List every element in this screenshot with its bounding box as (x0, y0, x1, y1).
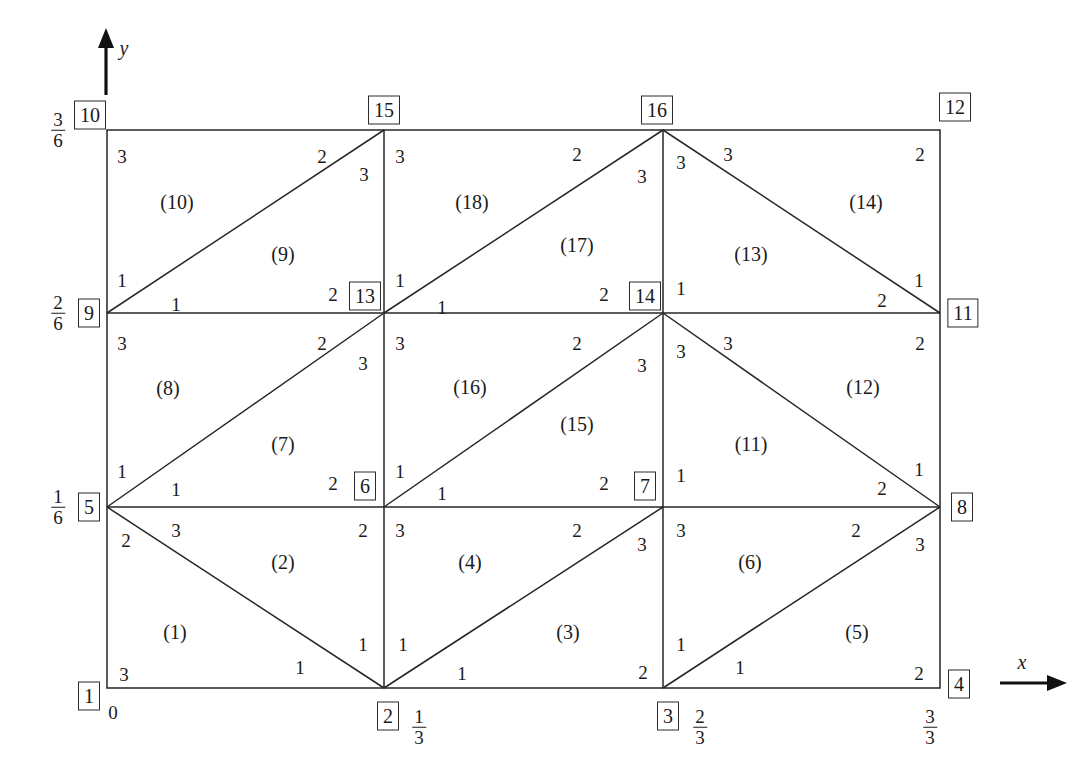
diagonal-e5-e6 (663, 507, 940, 688)
local-node-number: 3 (395, 333, 405, 355)
local-node-number: 3 (637, 166, 647, 188)
element-label-18: (18) (455, 191, 488, 214)
element-label-2: (2) (271, 551, 294, 574)
local-node-number: 2 (572, 144, 582, 166)
x-tick-2-3-den: 3 (693, 727, 707, 748)
global-node-9: 9 (78, 299, 100, 328)
local-node-number: 2 (317, 333, 327, 355)
local-node-number: 1 (437, 297, 447, 319)
local-node-number: 3 (358, 353, 368, 375)
local-node-number: 1 (457, 663, 467, 685)
local-node-number: 2 (599, 473, 609, 495)
diagonal-e1-e2 (107, 507, 384, 688)
element-label-3: (3) (556, 621, 579, 644)
y-tick-3-6: 36 (51, 110, 65, 151)
global-node-2: 2 (377, 702, 399, 731)
x-tick-2-3-num: 2 (693, 707, 707, 727)
x-tick-3-3-num: 3 (923, 707, 937, 727)
element-label-1: (1) (163, 621, 186, 644)
element-label-6: (6) (738, 551, 761, 574)
local-node-number: 3 (171, 520, 181, 542)
y-tick-1-6: 16 (51, 487, 65, 528)
element-label-17: (17) (560, 234, 593, 257)
global-node-8: 8 (951, 493, 973, 522)
y-tick-3-6-den: 6 (51, 130, 65, 151)
local-node-number: 1 (914, 270, 924, 292)
local-node-number: 3 (119, 664, 129, 686)
local-node-number: 2 (851, 520, 861, 542)
element-label-9: (9) (271, 243, 294, 266)
global-node-7: 7 (634, 472, 656, 501)
y-axis-label: y (120, 37, 129, 60)
x-tick-2-3: 23 (693, 707, 707, 748)
mesh-outer-boundary (107, 130, 940, 688)
global-node-4: 4 (948, 670, 970, 699)
y-tick-3-6-num: 3 (51, 110, 65, 130)
local-node-number: 2 (317, 146, 327, 168)
local-node-number: 2 (599, 284, 609, 306)
local-node-number: 1 (117, 270, 127, 292)
diagonal-e13-e14 (663, 130, 940, 313)
x-tick-0: 0 (108, 702, 118, 724)
local-node-number: 1 (676, 465, 686, 487)
element-label-4: (4) (458, 551, 481, 574)
global-node-12: 12 (939, 93, 971, 122)
local-node-number: 2 (914, 663, 924, 685)
local-node-number: 1 (395, 270, 405, 292)
local-node-number: 2 (877, 290, 887, 312)
y-axis-arrow (98, 28, 114, 95)
local-node-number: 2 (121, 530, 131, 552)
x-tick-1-3: 13 (412, 707, 426, 748)
element-label-11: (11) (735, 433, 768, 456)
diagonal-e9-e10 (107, 130, 384, 313)
mesh-figure: y x 36 26 16 0 13 23 33 1 2 3 4 5 6 7 8 … (0, 0, 1087, 783)
element-label-14: (14) (849, 191, 882, 214)
x-tick-1-3-num: 1 (412, 707, 426, 727)
local-node-number: 2 (915, 333, 925, 355)
local-node-number: 2 (328, 284, 338, 306)
local-node-number: 1 (914, 459, 924, 481)
local-node-number: 2 (638, 662, 648, 684)
local-node-number: 3 (117, 146, 127, 168)
local-node-number: 1 (171, 294, 181, 316)
element-label-10: (10) (160, 191, 193, 214)
local-node-number: 2 (572, 333, 582, 355)
local-node-number: 1 (117, 461, 127, 483)
global-node-16: 16 (641, 96, 673, 125)
local-node-number: 1 (171, 479, 181, 501)
local-node-number: 2 (877, 478, 887, 500)
y-tick-2-6-num: 2 (51, 293, 65, 313)
local-node-number: 1 (676, 278, 686, 300)
diagonal-e3-e4 (384, 507, 663, 688)
global-node-5: 5 (78, 493, 100, 522)
element-label-15: (15) (560, 413, 593, 436)
local-node-number: 1 (735, 657, 745, 679)
local-node-number: 2 (328, 473, 338, 495)
diagonal-e17-e18 (384, 130, 663, 313)
diagonal-e11-e12 (663, 313, 940, 507)
local-node-number: 3 (915, 534, 925, 556)
local-node-number: 1 (398, 634, 408, 656)
local-node-number: 3 (359, 164, 369, 186)
global-node-1: 1 (78, 682, 100, 711)
element-label-13: (13) (734, 243, 767, 266)
global-node-10: 10 (74, 101, 106, 130)
global-node-11: 11 (947, 299, 978, 328)
local-node-number: 3 (676, 341, 686, 363)
local-node-number: 3 (395, 520, 405, 542)
local-node-number: 1 (295, 657, 305, 679)
element-label-16: (16) (453, 376, 486, 399)
local-node-number: 2 (358, 520, 368, 542)
local-node-number: 3 (676, 152, 686, 174)
local-node-number: 3 (395, 146, 405, 168)
y-tick-1-6-num: 1 (51, 487, 65, 507)
local-node-number: 1 (395, 461, 405, 483)
element-label-7: (7) (271, 433, 294, 456)
element-label-12: (12) (846, 376, 879, 399)
local-node-number: 2 (915, 144, 925, 166)
element-label-8: (8) (156, 377, 179, 400)
global-node-15: 15 (368, 96, 400, 125)
local-node-number: 1 (358, 634, 368, 656)
local-node-number: 3 (723, 333, 733, 355)
local-node-number: 1 (437, 483, 447, 505)
